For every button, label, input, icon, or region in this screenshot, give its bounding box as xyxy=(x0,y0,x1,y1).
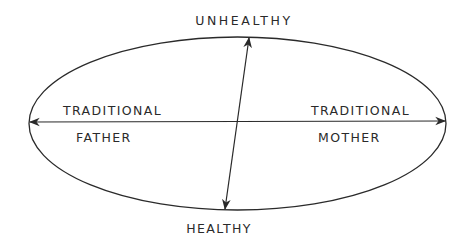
label-traditional-left: TRADITIONAL xyxy=(62,103,162,118)
vertical-axis-arrow xyxy=(225,38,249,209)
label-father: FATHER xyxy=(76,130,132,145)
label-unhealthy: UNHEALTHY xyxy=(195,13,293,28)
healthy-unhealthy-parenting-diagram: UNHEALTHY TRADITIONAL FATHER TRADITIONAL… xyxy=(0,0,469,244)
label-mother: MOTHER xyxy=(318,130,381,145)
label-healthy: HEALTHY xyxy=(186,221,252,236)
label-traditional-right: TRADITIONAL xyxy=(310,103,410,118)
